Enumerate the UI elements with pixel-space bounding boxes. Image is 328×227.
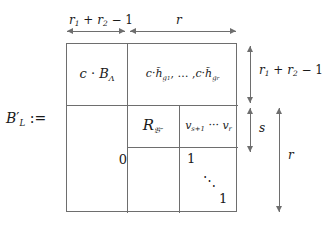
cell-content-zero: 0 [119,152,127,167]
cell-content-v-row: vs+1 ··· vr [185,119,232,133]
identity-entry-bottom: 1 [219,191,227,206]
identity-diagonal-dots-icon: ⋱ [203,173,216,188]
span-label-right-middle: s [259,121,265,135]
cell-content-h-tilde-list: c·h̃g1, … ,c·h̃gr [146,67,219,81]
matrix-cell-v-row: vs+1 ··· vr [179,105,238,147]
matrix-cell-zero-block: 0 [67,105,179,213]
span-arrow-top-right-icon [130,31,236,32]
matrix-cell-c-times-B-lambda: c · BΛ [67,44,127,105]
lhs-symbol: B [6,110,16,126]
span-arrow-top-left-icon [67,31,125,32]
span-label-right-bottom: r [288,148,294,162]
span-label-top-left: r1 + r2 − 1 [69,13,133,28]
block-matrix-figure: B′L := c · BΛ c·h̃g1, … ,c·h̃gr R𝔅″ [0,0,328,227]
lhs-definition-label: B′L := [6,110,46,128]
identity-entry-top: 1 [187,151,195,166]
span-arrow-right-top-icon [250,46,251,103]
span-label-top-right: r [176,13,182,27]
span-arrow-right-bottom-icon [279,108,280,212]
matrix-cell-identity-block: 1 ⋱ 1 [179,147,238,213]
cell-content-c-times-B-lambda: c · BΛ [79,66,114,83]
span-arrow-right-middle-icon [250,108,251,152]
matrix-frame: c · BΛ c·h̃g1, … ,c·h̃gr R𝔅″ vs+1 ··· vr… [66,43,237,212]
matrix-cell-c-times-h-tilde-list: c·h̃g1, … ,c·h̃gr [127,44,238,105]
lhs-operator: := [30,110,46,126]
span-label-right-top: r1 + r2 − 1 [259,63,323,78]
lhs-subscript: L [19,118,25,128]
